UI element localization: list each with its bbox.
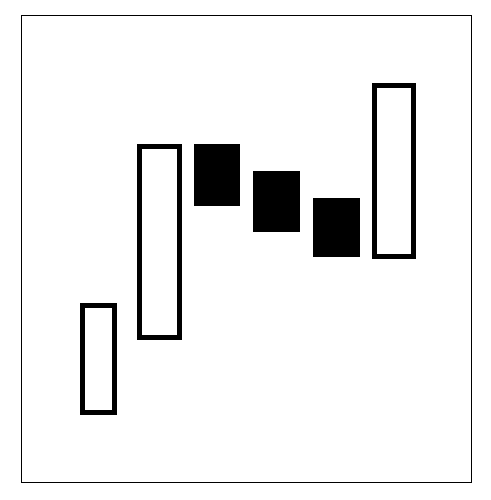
candle-body-4	[253, 171, 300, 232]
candle-body-3	[194, 144, 240, 206]
candle-body-1	[80, 303, 117, 415]
chart-canvas	[0, 0, 491, 500]
candle-body-5	[313, 198, 360, 257]
candle-body-6	[372, 83, 416, 259]
candle-series	[0, 0, 491, 500]
candle-body-2	[137, 144, 182, 340]
